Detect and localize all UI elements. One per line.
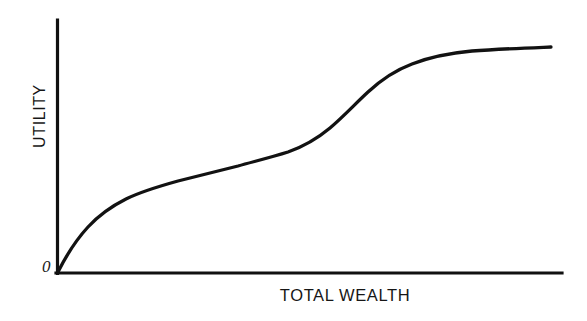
utility-of-wealth-chart: UTILITY TOTAL WEALTH 0 <box>0 0 587 321</box>
x-axis-label: TOTAL WEALTH <box>240 286 450 305</box>
y-axis-label: UTILITY <box>30 76 50 156</box>
origin-tick-label: 0 <box>42 258 51 275</box>
utility-curve <box>58 47 551 272</box>
chart-canvas <box>0 0 587 321</box>
